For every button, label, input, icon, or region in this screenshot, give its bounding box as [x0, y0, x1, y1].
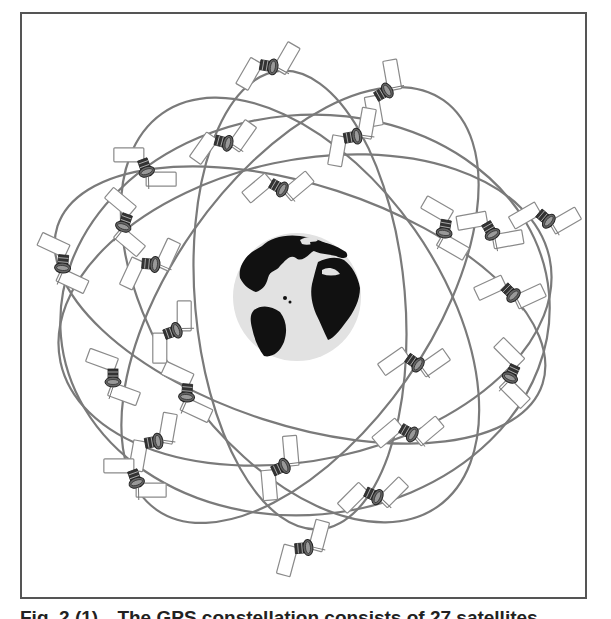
figure-caption: Fig. 2 (1) The GPS constellation consist…: [20, 604, 611, 619]
satellite-icon: [344, 55, 421, 131]
satellite-icon: [89, 186, 160, 259]
satellite-icon: [242, 431, 317, 505]
satellite-icon: [235, 34, 301, 98]
earth-globe-icon: [233, 233, 361, 361]
caption-text: The GPS constellation consists of 27 sat…: [117, 607, 537, 619]
gps-constellation-illustration: [0, 0, 611, 619]
satellite-icon: [239, 149, 316, 225]
figure-number: Fig. 2 (1): [20, 607, 98, 619]
satellite-icon: [369, 394, 446, 470]
satellite-icon: [470, 252, 549, 331]
satellite-icon: [475, 335, 549, 410]
satellite-icon: [375, 323, 454, 401]
satellite-icon: [33, 232, 93, 294]
